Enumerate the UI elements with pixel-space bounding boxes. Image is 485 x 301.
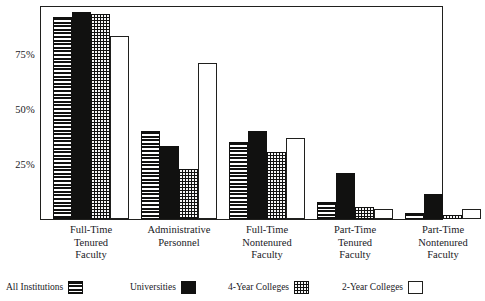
dotted-swatch-icon xyxy=(294,281,309,294)
y-axis-tick-label: 25% xyxy=(1,159,35,170)
x-axis-category-label: Part-Time Nontenured Faculty xyxy=(393,224,485,262)
bar-group xyxy=(405,7,481,219)
solid-black-swatch-icon xyxy=(181,281,196,294)
x-axis-category-line: Nontenured xyxy=(217,237,317,250)
legend-label: Universities xyxy=(130,281,176,293)
open-white-swatch-icon xyxy=(408,281,423,294)
bar-2-year-colleges xyxy=(198,63,217,219)
horizontal-stripes-swatch-icon xyxy=(68,281,83,294)
bar-4-year-colleges xyxy=(267,152,286,219)
legend-entry-all-institutions: All Institutions xyxy=(6,279,83,295)
x-axis-category-line: Faculty xyxy=(217,249,317,262)
bar-all-institutions xyxy=(317,202,336,219)
x-axis-category-line: Faculty xyxy=(393,249,485,262)
legend-entry-4-year-colleges: 4-Year Colleges xyxy=(228,279,309,295)
x-axis-category-label: Full-Time Nontenured Faculty xyxy=(217,224,317,262)
x-axis-category-label: Full-Time Tenured Faculty xyxy=(41,224,141,262)
bar-2-year-colleges xyxy=(286,138,305,219)
bar-2-year-colleges xyxy=(374,209,393,219)
bar-4-year-colleges xyxy=(355,207,374,220)
bar-group xyxy=(141,7,217,219)
legend-label: 4-Year Colleges xyxy=(228,281,289,293)
x-axis-category-line: Part-Time xyxy=(393,224,485,237)
x-axis-category-line: Faculty xyxy=(305,249,405,262)
bar-all-institutions xyxy=(141,131,160,219)
bar-2-year-colleges xyxy=(110,36,129,219)
x-axis-category-line: Tenured xyxy=(305,237,405,250)
bar-all-institutions xyxy=(53,17,72,219)
x-axis-category-line: Tenured xyxy=(41,237,141,250)
bar-4-year-colleges xyxy=(91,14,110,219)
x-axis-category-line: Part-Time xyxy=(305,224,405,237)
y-axis-tick-label: 50% xyxy=(1,104,35,115)
y-axis-tick-label: 75% xyxy=(1,49,35,60)
legend: All Institutions Universities 4-Year Col… xyxy=(6,279,447,297)
x-axis-category-line: Personnel xyxy=(129,237,229,250)
x-axis-category-line: Full-Time xyxy=(41,224,141,237)
legend-entry-2-year-colleges: 2-Year Colleges xyxy=(342,279,423,295)
bar-4-year-colleges xyxy=(443,215,462,219)
bar-group xyxy=(317,7,393,219)
bar-group xyxy=(53,7,129,219)
x-axis-category-line: Full-Time xyxy=(217,224,317,237)
bars-area xyxy=(41,7,442,219)
bar-all-institutions xyxy=(229,142,248,219)
legend-label: 2-Year Colleges xyxy=(342,281,403,293)
bar-all-institutions xyxy=(405,213,424,219)
x-axis-category-line: Faculty xyxy=(41,249,141,262)
bar-universities xyxy=(248,131,267,219)
x-axis-category-label: Administrative Personnel xyxy=(129,224,229,249)
bar-universities xyxy=(424,194,443,219)
bar-2-year-colleges xyxy=(462,209,481,219)
legend-label: All Institutions xyxy=(6,281,63,293)
bar-group xyxy=(229,7,305,219)
bar-universities xyxy=(160,146,179,219)
x-axis-category-line: Administrative xyxy=(129,224,229,237)
x-axis-labels: Full-Time Tenured Faculty Administrative… xyxy=(41,224,442,272)
x-axis-category-line: Nontenured xyxy=(393,237,485,250)
legend-entry-universities: Universities xyxy=(130,279,196,295)
x-axis-category-label: Part-Time Tenured Faculty xyxy=(305,224,405,262)
bar-universities xyxy=(336,173,355,219)
bar-4-year-colleges xyxy=(179,169,198,219)
bar-universities xyxy=(72,12,91,219)
y-axis: 75% 50% 25% xyxy=(0,0,40,226)
